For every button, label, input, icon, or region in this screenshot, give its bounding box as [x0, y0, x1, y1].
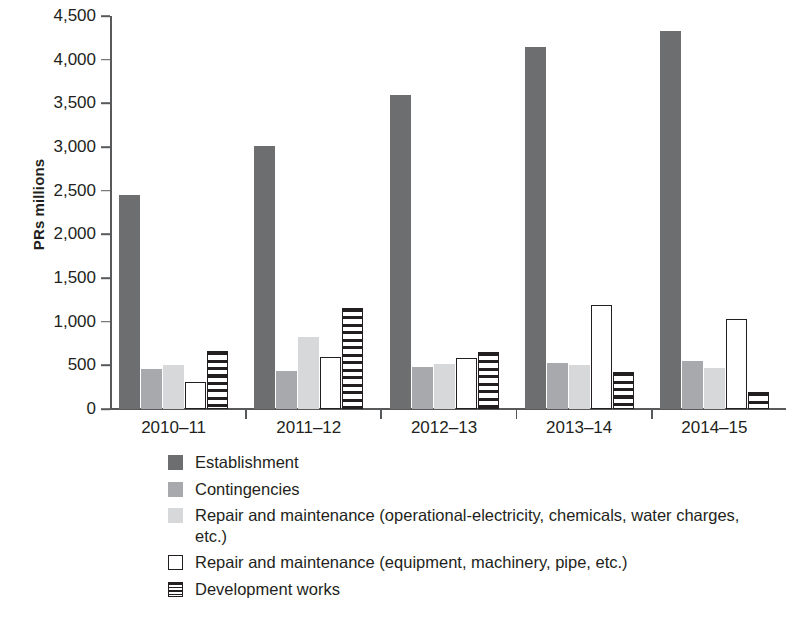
x-axis-tick-label: 2012–13 [411, 418, 477, 438]
legend-swatch-icon [168, 482, 183, 497]
x-axis-tick-mark [516, 410, 518, 419]
bar-development [342, 308, 363, 409]
y-axis-tick-mark [101, 234, 110, 236]
bar-establishment [119, 195, 140, 409]
y-axis-tick-label: 4,000 [0, 50, 96, 70]
y-axis-tick-mark [101, 146, 110, 148]
bar-repair-op [704, 368, 725, 409]
bar-contingencies [547, 363, 568, 409]
legend-item[interactable]: Establishment [168, 452, 768, 473]
y-axis-tick-mark [101, 15, 110, 17]
y-axis-tick-label: 4,500 [0, 6, 96, 26]
bar-development [478, 352, 499, 409]
bar-repair-op [163, 365, 184, 409]
legend-item[interactable]: Repair and maintenance (operational-elec… [168, 505, 768, 546]
x-axis-tick-mark [380, 410, 382, 419]
bar-development [207, 351, 228, 409]
y-axis-tick-label: 2,500 [0, 181, 96, 201]
bar-repair-eq [320, 357, 341, 409]
bar-establishment [390, 95, 411, 409]
x-axis-tick-mark [245, 410, 247, 419]
y-axis-tick-mark [101, 277, 110, 279]
bar-repair-op [569, 365, 590, 409]
legend-item-label: Repair and maintenance (operational-elec… [195, 505, 768, 546]
y-axis-tick-label: 2,000 [0, 224, 96, 244]
x-axis-tick-label: 2011–12 [276, 418, 341, 438]
y-axis-tick-mark [101, 59, 110, 61]
chart-legend: EstablishmentContingenciesRepair and mai… [168, 452, 768, 605]
bar-establishment [525, 47, 546, 409]
bar-development [748, 392, 769, 409]
bar-group [390, 16, 499, 409]
bar-contingencies [141, 369, 162, 409]
bar-contingencies [682, 361, 703, 409]
legend-item-label: Contingencies [195, 479, 300, 500]
y-axis-tick-mark [101, 321, 110, 323]
plot-area [110, 16, 786, 409]
y-axis-tick-mark [101, 408, 110, 410]
bar-repair-op [298, 337, 319, 409]
x-axis-tick-label: 2013–14 [546, 418, 612, 438]
legend-swatch-icon [168, 508, 183, 523]
bar-contingencies [412, 367, 433, 409]
bar-group [525, 16, 634, 409]
bar-chart: PRs millions 4,5004,0003,5003,0002,5002,… [0, 0, 797, 623]
legend-item[interactable]: Repair and maintenance (equipment, machi… [168, 552, 768, 573]
legend-swatch-icon [168, 455, 183, 470]
bar-development [613, 372, 634, 409]
bar-group [660, 16, 769, 409]
bar-group [119, 16, 228, 409]
x-axis-tick-label: 2014–15 [681, 418, 747, 438]
legend-swatch-icon [168, 582, 183, 597]
bar-repair-op [434, 364, 455, 409]
legend-swatch-icon [168, 555, 183, 570]
bar-repair-eq [726, 319, 747, 409]
bar-establishment [660, 31, 681, 409]
x-axis-tick-mark [651, 410, 653, 419]
bar-contingencies [276, 371, 297, 409]
y-axis-tick-mark [101, 190, 110, 192]
y-axis-tick-label: 3,500 [0, 93, 96, 113]
x-axis-tick-label: 2010–11 [141, 418, 206, 438]
legend-item-label: Establishment [195, 452, 299, 473]
bar-establishment [254, 146, 275, 409]
legend-item-label: Development works [195, 579, 340, 600]
y-axis-tick-mark [101, 365, 110, 367]
legend-item[interactable]: Development works [168, 579, 768, 600]
bar-group [254, 16, 363, 409]
legend-item-label: Repair and maintenance (equipment, machi… [195, 552, 628, 573]
y-axis-tick-label: 1,000 [0, 312, 96, 332]
y-axis-tick-mark [101, 103, 110, 105]
bar-repair-eq [185, 382, 206, 410]
y-axis-tick-label: 3,000 [0, 137, 96, 157]
legend-item[interactable]: Contingencies [168, 479, 768, 500]
y-axis-tick-label: 500 [0, 355, 96, 375]
y-axis-tick-label: 0 [0, 399, 96, 419]
y-axis-tick-label: 1,500 [0, 268, 96, 288]
bar-repair-eq [591, 305, 612, 409]
bar-repair-eq [456, 358, 477, 409]
